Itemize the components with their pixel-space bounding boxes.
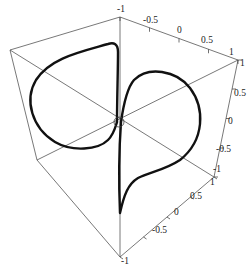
bottom-tick-label: 0	[174, 207, 179, 217]
right-tick-label: 0.5	[234, 88, 246, 98]
right-tick-label: 0	[228, 116, 233, 126]
right-tick-label: -1	[213, 164, 221, 174]
top-tick-label: 1	[229, 47, 234, 57]
bottom-tick-label: -1	[121, 256, 129, 265]
bounding-box	[10, 17, 238, 257]
space-curve	[30, 43, 200, 213]
right-tick-label: -0.5	[216, 144, 231, 154]
top-tick-label: -0.5	[143, 15, 158, 25]
plot-3d: -1 -0.5 0 0.5 1 1 0.5 0 -0.5 -1 -1 -0.5 …	[0, 0, 249, 265]
top-tick-label: 0	[177, 25, 182, 35]
bottom-tick-label: -0.5	[152, 225, 167, 235]
right-tick-label: 1	[240, 58, 245, 68]
top-tick-label: 0.5	[201, 35, 213, 45]
top-tick-label: -1	[117, 4, 125, 14]
bottom-tick-label: 0.5	[190, 191, 202, 201]
top-axis: -1 -0.5 0 0.5 1	[117, 4, 238, 64]
bottom-tick-label: 1	[210, 177, 215, 187]
bottom-axis: -1 -0.5 0 0.5 1	[120, 177, 217, 265]
